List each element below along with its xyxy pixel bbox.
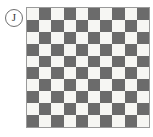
checker-cell: [27, 79, 39, 91]
checker-cell: [112, 115, 124, 127]
checker-cell: [125, 56, 137, 68]
checker-cell: [88, 20, 100, 32]
checker-cell: [125, 32, 137, 44]
checker-cell: [39, 79, 51, 91]
checker-cell: [112, 103, 124, 115]
checker-cell: [64, 67, 76, 79]
checker-cell: [137, 44, 149, 56]
checker-cell: [76, 67, 88, 79]
checker-cell: [39, 91, 51, 103]
checker-cell: [64, 56, 76, 68]
checker-cell: [100, 103, 112, 115]
checker-cell: [51, 44, 63, 56]
checker-cell: [112, 8, 124, 20]
checker-cell: [27, 115, 39, 127]
checker-cell: [64, 91, 76, 103]
checker-cell: [88, 67, 100, 79]
checker-cell: [64, 103, 76, 115]
checker-cell: [39, 44, 51, 56]
checker-cell: [51, 20, 63, 32]
checker-cell: [125, 115, 137, 127]
checker-cell: [100, 44, 112, 56]
checker-cell: [76, 56, 88, 68]
checker-cell: [125, 20, 137, 32]
checker-cell: [88, 32, 100, 44]
checker-cell: [100, 56, 112, 68]
checker-cell: [125, 67, 137, 79]
checkerboard-grid: [26, 7, 150, 128]
figure-label-text: J: [12, 12, 16, 24]
checker-cell: [76, 115, 88, 127]
checker-cell: [112, 44, 124, 56]
checker-cell: [76, 8, 88, 20]
checker-cell: [51, 79, 63, 91]
checker-cell: [27, 103, 39, 115]
checker-cell: [88, 56, 100, 68]
checker-cell: [88, 44, 100, 56]
checker-cell: [100, 115, 112, 127]
checker-cell: [88, 91, 100, 103]
checker-cell: [51, 56, 63, 68]
checker-cell: [100, 8, 112, 20]
checker-cell: [112, 56, 124, 68]
checker-cell: [64, 20, 76, 32]
checker-cell: [137, 103, 149, 115]
checker-cell: [39, 56, 51, 68]
checker-cell: [27, 67, 39, 79]
checker-cell: [137, 79, 149, 91]
checker-cell: [100, 20, 112, 32]
checker-cell: [27, 56, 39, 68]
checker-cell: [112, 20, 124, 32]
checker-cell: [51, 103, 63, 115]
checker-cell: [64, 8, 76, 20]
checker-cell: [88, 8, 100, 20]
checker-cell: [88, 79, 100, 91]
checker-cell: [64, 79, 76, 91]
checker-cell: [125, 44, 137, 56]
checker-cell: [76, 44, 88, 56]
figure-label-badge: J: [5, 9, 23, 27]
checker-cell: [137, 67, 149, 79]
checker-cell: [39, 20, 51, 32]
checker-cell: [51, 32, 63, 44]
checker-cell: [137, 20, 149, 32]
checker-cell: [51, 67, 63, 79]
checker-cell: [137, 115, 149, 127]
checker-cell: [76, 91, 88, 103]
checker-cell: [39, 103, 51, 115]
checker-cell: [100, 67, 112, 79]
checker-cell: [27, 32, 39, 44]
checker-cell: [27, 91, 39, 103]
checker-cell: [125, 103, 137, 115]
checker-cell: [125, 79, 137, 91]
checker-cell: [39, 32, 51, 44]
checker-cell: [76, 79, 88, 91]
checker-cell: [76, 20, 88, 32]
checker-cell: [39, 8, 51, 20]
checker-cell: [125, 91, 137, 103]
checker-cell: [112, 32, 124, 44]
checker-cell: [39, 115, 51, 127]
checker-cell: [88, 103, 100, 115]
checker-cell: [100, 91, 112, 103]
checker-cell: [64, 32, 76, 44]
checker-cell: [64, 44, 76, 56]
checker-cell: [137, 56, 149, 68]
checker-cell: [64, 115, 76, 127]
checker-cell: [137, 32, 149, 44]
checker-cell: [112, 79, 124, 91]
checker-cell: [27, 8, 39, 20]
checker-cell: [51, 91, 63, 103]
checker-cell: [100, 79, 112, 91]
checker-cell: [88, 115, 100, 127]
checker-cell: [27, 20, 39, 32]
checker-cell: [76, 103, 88, 115]
figure-panel: J: [0, 0, 153, 137]
checker-cell: [27, 44, 39, 56]
checker-cell: [112, 91, 124, 103]
checker-cell: [100, 32, 112, 44]
checker-cell: [51, 115, 63, 127]
checker-cell: [112, 67, 124, 79]
checker-cell: [76, 32, 88, 44]
checker-cell: [51, 8, 63, 20]
